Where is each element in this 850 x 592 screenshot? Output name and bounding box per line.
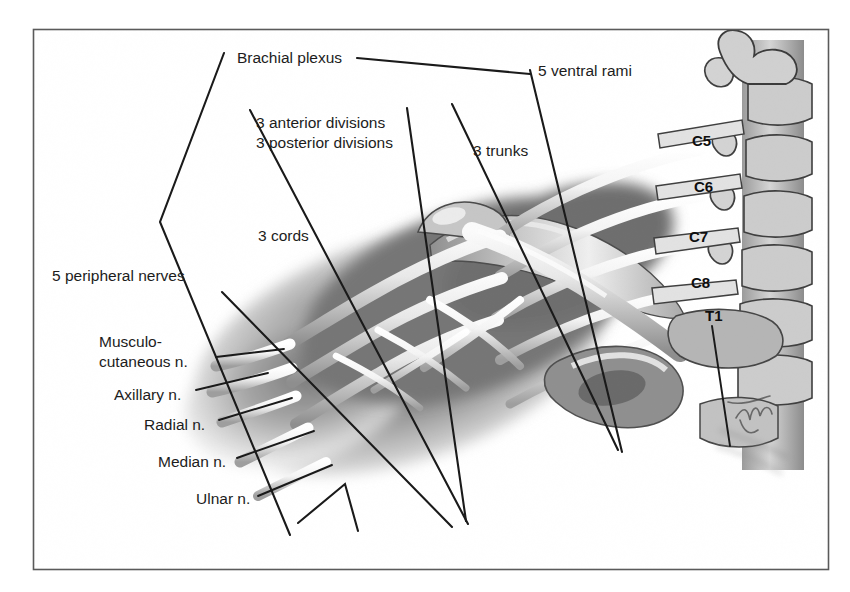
- paper-grain: [34, 30, 828, 569]
- label-median-nerve: Median n.: [158, 453, 226, 470]
- brachial-plexus-figure: Brachial plexus 5 ventral rami 3 anterio…: [0, 0, 850, 592]
- label-five-peripheral-nerves: 5 peripheral nerves: [52, 267, 185, 284]
- label-ulnar-nerve: Ulnar n.: [196, 490, 250, 507]
- label-musculocutaneous-line2: cutaneous n.: [99, 353, 188, 370]
- label-brachial-plexus: Brachial plexus: [237, 49, 342, 66]
- anatomy-illustration: [34, 30, 828, 569]
- label-musculocutaneous-line1: Musculo-: [99, 333, 162, 350]
- label-three-posterior-divisions: 3 posterior divisions: [256, 134, 393, 151]
- label-axillary-nerve: Axillary n.: [114, 386, 181, 403]
- label-three-trunks: 3 trunks: [473, 142, 528, 159]
- label-five-ventral-rami: 5 ventral rami: [538, 62, 632, 79]
- label-three-cords: 3 cords: [258, 227, 309, 244]
- label-vertebra-c5: C5: [692, 132, 711, 149]
- label-vertebra-c7: C7: [689, 228, 708, 245]
- figure-canvas: Brachial plexus 5 ventral rami 3 anterio…: [0, 0, 850, 592]
- label-radial-nerve: Radial n.: [144, 416, 205, 433]
- label-vertebra-c8: C8: [691, 274, 710, 291]
- label-vertebra-c6: C6: [694, 178, 713, 195]
- label-three-anterior-divisions: 3 anterior divisions: [256, 114, 385, 131]
- label-vertebra-t1: T1: [705, 307, 723, 324]
